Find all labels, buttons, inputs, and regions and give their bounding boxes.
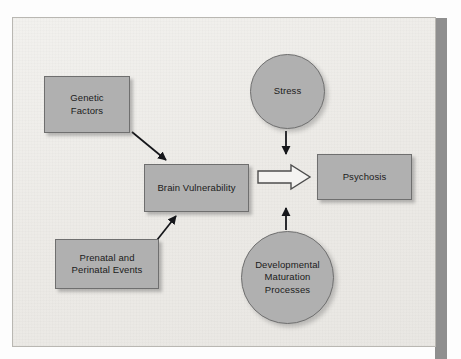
diagram-panel: Genetic Factors Prenatal and Perinatal E… bbox=[12, 17, 436, 347]
node-genetic-factors[interactable]: Genetic Factors bbox=[44, 76, 130, 133]
figure-canvas: Genetic Factors Prenatal and Perinatal E… bbox=[0, 0, 461, 359]
node-brain-vulnerability[interactable]: Brain Vulnerability bbox=[144, 164, 249, 212]
node-stress[interactable]: Stress bbox=[250, 54, 325, 129]
node-developmental-maturation-processes[interactable]: Developmental Maturation Processes bbox=[241, 231, 334, 324]
node-psychosis[interactable]: Psychosis bbox=[317, 154, 412, 200]
arrow-prenatal-to-brain bbox=[157, 216, 176, 240]
arrow-genetic-to-brain bbox=[132, 132, 166, 160]
node-prenatal-perinatal-events[interactable]: Prenatal and Perinatal Events bbox=[55, 239, 159, 289]
block-arrow-brain-to-psychosis bbox=[258, 165, 310, 189]
